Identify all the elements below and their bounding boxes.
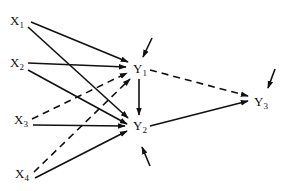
disturbance-y2-arrow [142,147,150,166]
node-x4: X4 [15,167,29,185]
edge-x2-y1-arrow [28,63,126,67]
edges [28,22,248,178]
edge-y2-y3-arrow [150,101,248,126]
edge-x4-y2-arrow [35,131,127,178]
node-subscript: 2 [142,125,147,135]
disturbance-y1-arrow [143,38,152,57]
node-label: Y [133,61,142,76]
node-subscript: 3 [23,119,28,129]
node-subscript: 1 [142,68,147,78]
disturbance-y3-arrow [268,69,275,88]
edge-x3-y2-arrow [33,125,125,126]
node-subscript: 3 [263,101,268,111]
node-subscript: 1 [19,20,24,30]
node-x3: X3 [14,113,28,131]
node-label: Y [133,118,142,133]
node-x2: X2 [10,56,24,74]
node-subscript: 4 [24,173,29,183]
node-label: X [15,166,24,181]
node-x1: X1 [10,14,24,32]
node-subscript: 2 [19,62,24,72]
node-label: X [14,112,23,127]
node-y3: Y3 [254,95,268,113]
node-label: X [10,13,19,28]
node-label: X [10,55,19,70]
node-y2: Y2 [133,119,147,137]
edge-y1-y3-arrow [150,70,248,96]
node-y1: Y1 [133,62,147,80]
node-label: Y [254,94,263,109]
path-diagram [0,0,285,191]
